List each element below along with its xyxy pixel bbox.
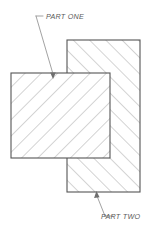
part-one-hatch [4,66,118,166]
technical-drawing-canvas: PART ONE PART TWO [0,0,150,239]
part-two-label: PART TWO [101,212,140,221]
part-one-leader-line [36,16,53,74]
section-view-svg: PART ONE PART TWO [0,0,150,239]
part-one-leader [36,16,56,79]
part-one-label: PART ONE [46,12,84,21]
part-one-shape[interactable] [4,66,118,166]
